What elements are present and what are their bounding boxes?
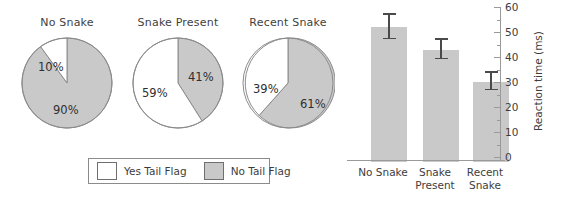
y-tick-50: [494, 32, 501, 33]
pie-value-label-no: 61%: [300, 97, 326, 111]
errorbar-cap-top-no-snake: [383, 13, 396, 15]
pie-value-label-yes: 10%: [38, 60, 64, 74]
legend-label-no-tail-flag: No Tail Flag: [231, 165, 291, 177]
y-tick-minor-25: [497, 95, 501, 96]
pie-value-label-no: 41%: [188, 70, 214, 84]
y-tick-label-20: 20: [505, 101, 518, 113]
y-tick-20: [494, 107, 501, 108]
y-tick-40: [494, 57, 501, 58]
y-tick-minor-35: [497, 70, 501, 71]
bar-xlabel-recent-snake-line1: Recent: [467, 166, 503, 178]
pie-value-label-no: 90%: [53, 103, 79, 117]
bar-chart-panel: No Snake Snake Present Recent Snake 60 5…: [345, 0, 573, 202]
errorbar-line-no-snake: [388, 13, 390, 38]
legend-swatch-yes-tail-flag: [97, 162, 117, 180]
pie-title-snake-present: Snake Present: [131, 16, 225, 29]
legend-swatch-no-tail-flag: [204, 162, 224, 180]
y-tick-minor-45: [497, 45, 501, 46]
y-tick-minor-5: [497, 145, 501, 146]
y-tick-label-60: 60: [505, 1, 518, 13]
bar-recent-snake: [473, 82, 509, 162]
errorbar-cap-top-recent-snake: [485, 71, 498, 73]
y-tick-minor-55: [497, 20, 501, 21]
bar-xlabel-recent-snake-line2: Snake: [469, 179, 501, 191]
bar-snake-present: [423, 50, 459, 162]
errorbar-cap-bottom-snake-present: [435, 58, 448, 60]
pie-title-recent-snake: Recent Snake: [241, 16, 335, 29]
y-tick-label-30: 30: [505, 76, 518, 88]
y-tick-label-40: 40: [505, 51, 518, 63]
y-tick-label-50: 50: [505, 26, 518, 38]
bar-plot-area: [355, 0, 515, 162]
y-tick-0: [494, 157, 501, 158]
y-tick-60: [494, 7, 501, 8]
errorbar-line-recent-snake: [490, 71, 492, 89]
figure-panel: No Snake 10% 90% Snake Present 41% 5: [0, 0, 573, 202]
x-axis-baseline: [347, 160, 505, 161]
errorbar-cap-bottom-no-snake: [383, 38, 396, 40]
y-tick-minor-15: [497, 120, 501, 121]
pie-value-label-yes: 39%: [253, 82, 279, 96]
y-tick-30: [494, 82, 501, 83]
y-tick-label-10: 10: [505, 126, 518, 138]
y-tick-label-0: 0: [505, 151, 512, 163]
errorbar-cap-top-snake-present: [435, 38, 448, 40]
bar-no-snake: [371, 27, 407, 162]
y-axis-title: Reaction time (ms): [532, 31, 544, 131]
y-axis-line: [500, 7, 501, 161]
pie-charts-panel: No Snake 10% 90% Snake Present 41% 5: [0, 0, 345, 202]
errorbar-cap-bottom-recent-snake: [485, 89, 498, 91]
legend-label-yes-tail-flag: Yes Tail Flag: [124, 165, 187, 177]
bar-xlabel-recent-snake: Recent Snake: [445, 166, 525, 191]
pie-value-label-yes: 59%: [142, 86, 168, 100]
pie-title-no-snake: No Snake: [20, 16, 114, 29]
errorbar-line-snake-present: [440, 38, 442, 58]
legend: Yes Tail Flag No Tail Flag: [88, 158, 270, 184]
y-tick-10: [494, 132, 501, 133]
